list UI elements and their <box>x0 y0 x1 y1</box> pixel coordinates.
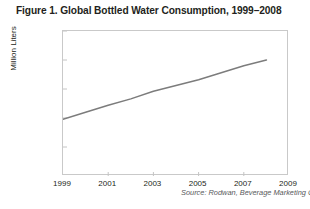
x-tick-label: 2005 <box>178 179 218 188</box>
x-tick-label: 2001 <box>87 179 127 188</box>
x-tick-label: 2007 <box>223 179 263 188</box>
x-tick-label: 1999 <box>42 179 82 188</box>
data-series-line <box>63 60 266 119</box>
figure-container: Figure 1. Global Bottled Water Consumpti… <box>0 0 310 209</box>
x-tick-marks <box>108 172 244 176</box>
y-tick-marks <box>63 31 67 147</box>
y-axis-title: Million Liters <box>9 4 18 94</box>
line-chart-plot <box>63 31 289 176</box>
figure-title: Figure 1. Global Bottled Water Consumpti… <box>16 5 281 16</box>
x-tick-label: 2009 <box>268 179 308 188</box>
x-tick-label: 2003 <box>132 179 172 188</box>
plot-area: Source: Rodwan, Beverage Marketing Corpo… <box>62 30 288 175</box>
source-note: Source: Rodwan, Beverage Marketing Corpo… <box>181 188 310 197</box>
